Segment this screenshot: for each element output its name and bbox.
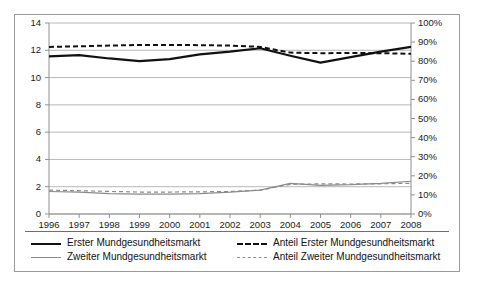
y-axis-right-tick-label: 100% bbox=[418, 18, 458, 28]
chart-frame: 024681012140%10%20%30%40%50%60%70%80%90%… bbox=[14, 14, 460, 272]
x-axis-tick-label: 2005 bbox=[305, 220, 337, 230]
legend-column-right: Anteil Erster Mundgesundheitsmarkt Antei… bbox=[237, 236, 440, 264]
y-axis-right-tick-label: 30% bbox=[418, 152, 458, 162]
x-axis-tick-label: 2006 bbox=[335, 220, 367, 230]
legend-item: Erster Mundgesundheitsmarkt bbox=[31, 236, 207, 249]
chart-legend: Erster Mundgesundheitsmarkt Zweiter Mund… bbox=[25, 231, 449, 235]
y-axis-left-tick-label: 4 bbox=[13, 154, 41, 164]
y-axis-right-tick-label: 50% bbox=[418, 114, 458, 124]
x-axis-tick-label: 2001 bbox=[184, 220, 216, 230]
x-axis-tick-label: 2003 bbox=[244, 220, 276, 230]
x-axis-tick-label: 1996 bbox=[33, 220, 65, 230]
y-axis-right-tick-label: 0% bbox=[418, 209, 458, 219]
legend-label: Anteil Erster Mundgesundheitsmarkt bbox=[273, 237, 434, 249]
legend-item: Anteil Zweiter Mundgesundheitsmarkt bbox=[237, 250, 440, 263]
y-axis-left-tick-label: 2 bbox=[13, 182, 41, 192]
legend-swatch-solid-dark-icon bbox=[31, 237, 61, 249]
y-axis-left-tick-label: 12 bbox=[13, 45, 41, 55]
series-line-1 bbox=[49, 181, 411, 194]
y-axis-left-tick-label: 14 bbox=[13, 18, 41, 28]
legend-swatch-dashed-dark-icon bbox=[237, 237, 267, 249]
legend-column-left: Erster Mundgesundheitsmarkt Zweiter Mund… bbox=[31, 236, 207, 264]
x-axis-tick-label: 1999 bbox=[124, 220, 156, 230]
y-axis-left-tick-label: 10 bbox=[13, 73, 41, 83]
x-axis-tick-label: 1998 bbox=[93, 220, 125, 230]
series-line-0 bbox=[49, 47, 411, 63]
y-axis-left-tick-label: 6 bbox=[13, 127, 41, 137]
x-axis-tick-label: 1997 bbox=[63, 220, 95, 230]
legend-swatch-solid-gray-icon bbox=[31, 251, 61, 263]
x-axis-tick-label: 2004 bbox=[274, 220, 306, 230]
y-axis-right-tick-label: 80% bbox=[418, 56, 458, 66]
y-axis-left-tick-label: 0 bbox=[13, 209, 41, 219]
y-axis-left-tick-label: 8 bbox=[13, 100, 41, 110]
legend-swatch-dashed-gray-icon bbox=[237, 251, 267, 263]
x-axis-tick-label: 2000 bbox=[154, 220, 186, 230]
x-axis-tick-label: 2002 bbox=[214, 220, 246, 230]
x-axis-tick-label: 2007 bbox=[365, 220, 397, 230]
x-axis-tick-label: 2008 bbox=[395, 220, 427, 230]
legend-label: Zweiter Mundgesundheitsmarkt bbox=[67, 251, 207, 263]
y-axis-right-tick-label: 20% bbox=[418, 171, 458, 181]
y-axis-right-tick-label: 10% bbox=[418, 190, 458, 200]
y-axis-right-tick-label: 60% bbox=[418, 94, 458, 104]
legend-item: Zweiter Mundgesundheitsmarkt bbox=[31, 250, 207, 263]
y-axis-right-tick-label: 40% bbox=[418, 133, 458, 143]
legend-item: Anteil Erster Mundgesundheitsmarkt bbox=[237, 236, 440, 249]
legend-label: Erster Mundgesundheitsmarkt bbox=[67, 237, 200, 249]
y-axis-right-tick-label: 70% bbox=[418, 75, 458, 85]
series-line-3 bbox=[49, 183, 411, 192]
y-axis-right-tick-label: 90% bbox=[418, 37, 458, 47]
legend-label: Anteil Zweiter Mundgesundheitsmarkt bbox=[273, 251, 440, 263]
